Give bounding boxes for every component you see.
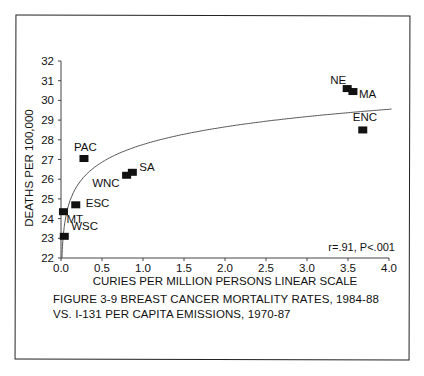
y-axis-label: DEATHS PER 100,000 — [23, 109, 35, 226]
point-label-enc: ENC — [353, 111, 377, 123]
y-tick-label: 27 — [41, 154, 54, 166]
data-point-wsc — [60, 233, 69, 240]
x-tick-label: 1.5 — [176, 262, 192, 274]
data-point-pac — [79, 155, 88, 162]
x-tick-label: 1.0 — [135, 262, 151, 274]
y-tick-label: 23 — [41, 232, 54, 244]
x-tick-label: 4.0 — [381, 262, 397, 274]
y-tick-label: 30 — [41, 94, 54, 106]
point-label-wsc: WSC — [71, 220, 98, 232]
x-tick-label: 0.5 — [94, 262, 110, 274]
point-label-ma: MA — [359, 88, 377, 100]
figure-caption-line-2: VS. I-131 PER CAPITA EMISSIONS, 1970-87 — [53, 308, 291, 320]
point-label-ne: NE — [330, 74, 346, 86]
point-label-esc: ESC — [86, 197, 110, 209]
x-tick-label: 0.0 — [53, 262, 69, 274]
data-point-ma — [348, 88, 357, 95]
y-tick-label: 31 — [41, 75, 54, 87]
y-tick-label: 28 — [41, 134, 54, 146]
point-label-wnc: WNC — [92, 177, 119, 189]
y-tick-label: 29 — [41, 114, 54, 126]
data-point-enc — [358, 126, 367, 133]
x-axis-label: CURIES PER MILLION PERSONS LINEAR SCALE — [93, 275, 358, 287]
data-point-wnc — [122, 172, 131, 179]
figure-caption-line-1: FIGURE 3-9 BREAST CANCER MORTALITY RATES… — [53, 293, 379, 305]
x-tick-label: 2.5 — [258, 262, 274, 274]
x-tick-label: 3.0 — [299, 262, 315, 274]
x-tick-label: 2.0 — [217, 262, 233, 274]
y-tick-label: 32 — [41, 55, 54, 67]
point-label-sa: SA — [139, 161, 155, 173]
y-tick-label: 25 — [41, 193, 54, 205]
y-tick-label: 26 — [41, 173, 54, 185]
data-point-esc — [71, 201, 80, 208]
y-tick-label: 24 — [41, 213, 54, 225]
x-tick-label: 3.5 — [340, 262, 356, 274]
correlation-annotation: r=.91, P<.001 — [328, 241, 395, 253]
point-label-pac: PAC — [74, 141, 97, 153]
